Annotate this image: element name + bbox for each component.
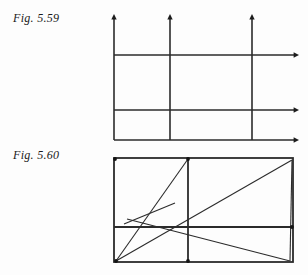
vertical-ray-group xyxy=(114,17,252,140)
vertical-ray-middle-arrowhead xyxy=(167,14,172,19)
short-chord-crossing xyxy=(124,203,175,224)
horizontal-ray-upper-arrowhead xyxy=(294,52,299,57)
node-top-left xyxy=(113,157,117,161)
node-bottom-left xyxy=(114,259,118,263)
arrowhead-group xyxy=(111,14,299,143)
figure-drawing-canvas xyxy=(0,0,308,275)
diagonal-topright-to-bottomright xyxy=(290,160,292,261)
node-top-middle xyxy=(186,157,190,161)
figure-5-60-group xyxy=(113,157,294,263)
diagonal-bottomleft-to-topright xyxy=(116,160,292,261)
diagonal-line-group xyxy=(116,159,292,261)
horizontal-ray-group xyxy=(114,55,296,140)
diagonal-bottomleft-to-topmiddle xyxy=(116,159,188,261)
vertical-ray-right-arrowhead xyxy=(249,14,254,19)
vertical-ray-left-arrowhead xyxy=(111,14,116,19)
diagonal-midleft-to-bottomright xyxy=(127,219,290,261)
horizontal-ray-middle-arrowhead xyxy=(294,107,299,112)
node-bottom-middle xyxy=(186,259,190,263)
horizontal-ray-lower-arrowhead xyxy=(294,137,299,142)
figure-5-59-group xyxy=(111,14,299,143)
figure-sheet: Fig. 5.59 Fig. 5.60 xyxy=(0,0,308,275)
node-right-middle xyxy=(290,225,294,229)
